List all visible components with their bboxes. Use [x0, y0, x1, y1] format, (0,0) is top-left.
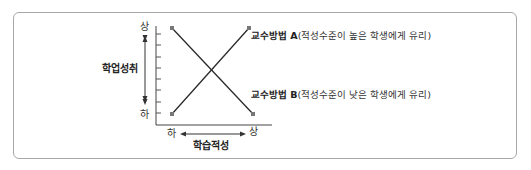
series-a-legend: 교수방법 A(적성수준이 높은 학생에게 유리) [251, 30, 431, 42]
x-axis-left-label: 하 [167, 128, 176, 140]
series-a-description: (적성수준이 높은 학생에게 유리) [298, 30, 431, 41]
series-b-name: 교수방법 B [251, 89, 298, 100]
x-axis-right-label: 상 [249, 126, 258, 138]
series-b-end-marker [251, 112, 255, 116]
y-axis-bottom-label: 하 [140, 109, 149, 121]
interaction-chart [0, 0, 531, 170]
series-b-legend: 교수방법 B(적성수준이 낮은 학생에게 유리) [251, 89, 431, 101]
series-b-start-marker [170, 26, 174, 30]
series-a-start-marker [170, 112, 174, 116]
series-b-description: (적성수준이 낮은 학생에게 유리) [298, 89, 431, 100]
y-axis-ticks [156, 34, 161, 113]
y-axis-title: 학업성취 [102, 63, 138, 75]
x-axis-title: 학습적성 [193, 140, 229, 152]
series-a-name: 교수방법 A [251, 30, 298, 41]
y-axis-top-label: 상 [140, 21, 149, 33]
y-double-arrow-icon [143, 36, 148, 105]
x-double-arrow-icon [180, 132, 246, 137]
